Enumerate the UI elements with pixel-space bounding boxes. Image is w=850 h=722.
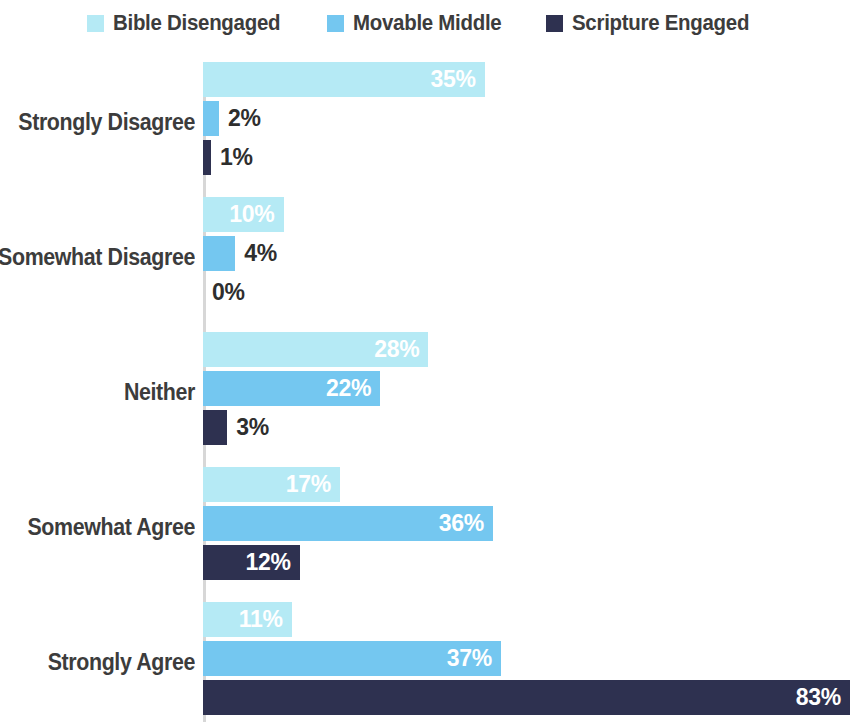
legend-swatch-movable-middle — [327, 15, 344, 32]
bar-group: Somewhat Disagree10%4%0% — [0, 197, 850, 310]
legend-swatch-scripture-engaged — [546, 15, 563, 32]
chart-container: Bible Disengaged Movable Middle Scriptur… — [0, 0, 850, 722]
bar-value-label: 1% — [220, 140, 253, 175]
bar-value-label: 83% — [796, 680, 841, 715]
legend-item-bible-disengaged: Bible Disengaged — [87, 10, 293, 36]
bar-value-label: 22% — [326, 371, 371, 406]
bar-row: 0% — [203, 275, 850, 310]
category-label: Strongly Agree — [0, 645, 195, 680]
bar-row: 35% — [203, 62, 850, 97]
category-label: Somewhat Disagree — [0, 240, 195, 275]
bar-value-label: 17% — [286, 467, 331, 502]
bar-value-label: 0% — [212, 275, 245, 310]
legend-label-bible-disengaged: Bible Disengaged — [113, 10, 280, 36]
bar — [203, 236, 235, 271]
bar-group: Somewhat Agree17%36%12% — [0, 467, 850, 580]
bar-group: Strongly Agree11%37%83% — [0, 602, 850, 715]
category-label: Strongly Disagree — [0, 105, 195, 140]
bar-row: 4% — [203, 236, 850, 271]
bar-group: Strongly Disagree35%2%1% — [0, 62, 850, 175]
legend-swatch-bible-disengaged — [87, 15, 104, 32]
bar-value-label: 4% — [244, 236, 277, 271]
bar-value-label: 10% — [229, 197, 274, 232]
bar-value-label: 12% — [245, 545, 290, 580]
bar-value-label: 3% — [236, 410, 269, 445]
category-label: Neither — [0, 375, 195, 410]
bar-row: 36% — [203, 506, 850, 541]
bar-row: 2% — [203, 101, 850, 136]
legend-label-scripture-engaged: Scripture Engaged — [572, 10, 749, 36]
legend-item-movable-middle: Movable Middle — [327, 10, 513, 36]
bar-value-label: 2% — [228, 101, 261, 136]
bar-value-label: 36% — [439, 506, 484, 541]
bar-row: 11% — [203, 602, 850, 637]
bar-value-label: 11% — [239, 602, 283, 637]
bar-row: 17% — [203, 467, 850, 502]
chart-legend: Bible Disengaged Movable Middle Scriptur… — [0, 0, 850, 46]
bar-row: 3% — [203, 410, 850, 445]
bar-value-label: 37% — [447, 641, 492, 676]
bar-row: 37% — [203, 641, 850, 676]
bar — [203, 140, 211, 175]
category-label: Somewhat Agree — [0, 510, 195, 545]
bar-row: 28% — [203, 332, 850, 367]
plot-area: Strongly Disagree35%2%1%Somewhat Disagre… — [0, 46, 850, 722]
legend-label-movable-middle: Movable Middle — [353, 10, 501, 36]
bar-value-label: 35% — [431, 62, 476, 97]
bar-row: 12% — [203, 545, 850, 580]
bar-row: 22% — [203, 371, 850, 406]
bar — [203, 101, 219, 136]
bar-group: Neither28%22%3% — [0, 332, 850, 445]
legend-item-scripture-engaged: Scripture Engaged — [546, 10, 763, 36]
bar — [203, 680, 850, 715]
bar — [203, 410, 227, 445]
bar-row: 83% — [203, 680, 850, 715]
bar-row: 10% — [203, 197, 850, 232]
bar-row: 1% — [203, 140, 850, 175]
bar-value-label: 28% — [374, 332, 419, 367]
